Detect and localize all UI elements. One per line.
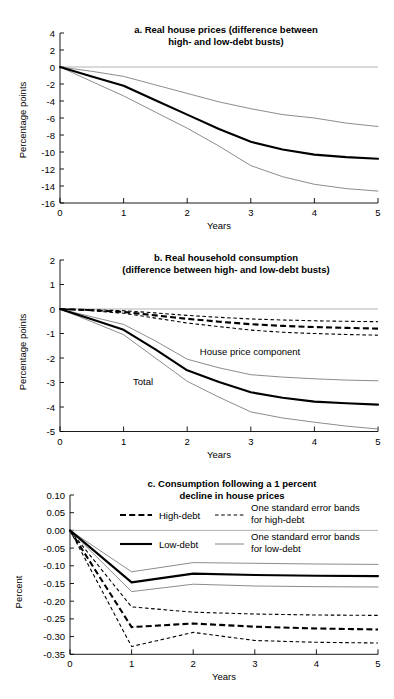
panel-a-y-ticks — [60, 33, 64, 203]
panel-c-x-tick-labels: 0 1 2 3 4 5 — [67, 658, 380, 669]
panel-a-y-tick-labels: 4 2 0 -2 -4 -6 -8 -10 -12 -14 -16 — [41, 28, 55, 209]
panel-c-y-ticks — [70, 495, 74, 654]
panel-a-ytick-10: -16 — [41, 198, 55, 209]
panel-c-titles: c. Consumption following a 1 percent dec… — [148, 478, 318, 501]
three-panel-figure: a. Real house prices (difference between… — [0, 0, 394, 699]
legend-label-high-debt-bands-line2: for high-debt — [251, 514, 305, 525]
panel-b-x-axis-title: Years — [207, 449, 231, 460]
panel-b-xtick-0: 0 — [57, 436, 62, 447]
panel-c-ytick-4: -0.10 — [43, 560, 65, 571]
panel-c-title-line1: c. Consumption following a 1 percent — [148, 478, 318, 489]
panel-a-x-tick-labels: 0 1 2 3 4 5 — [57, 207, 380, 218]
panel-c-xtick-4: 4 — [314, 658, 319, 669]
panel-a-axis-lines — [60, 33, 378, 203]
panel-b-title-line2: (difference between high- and low-debt b… — [122, 264, 329, 275]
legend-label-low-debt-bands-line1: One standard error bands — [251, 531, 360, 542]
panel-b-x-tick-labels: 0 1 2 3 4 5 — [57, 436, 380, 447]
panel-a-ytick-4: -4 — [47, 96, 55, 107]
panel-a-xtick-2: 2 — [185, 207, 190, 218]
panel-c-ytick-7: -0.25 — [43, 613, 65, 624]
panel-a-plot: a. Real house prices (difference between… — [0, 0, 394, 232]
panel-a-title-line2: high- and low-debt busts) — [168, 36, 284, 47]
panel-c-ytick-2: 0.00 — [47, 525, 66, 536]
legend-label-low-debt: Low-debt — [159, 539, 198, 550]
panel-b-total-label: Total — [133, 376, 153, 387]
panel-a-ytick-7: -10 — [41, 147, 55, 158]
panel-c-xtick-3: 3 — [252, 658, 257, 669]
panel-a-ytick-1: 2 — [50, 45, 55, 56]
panel-b-ytick-2: 0 — [50, 304, 55, 315]
panel-a-xtick-5: 5 — [375, 207, 380, 218]
panel-b-ytick-4: -2 — [47, 353, 55, 364]
panel-b-ytick-7: -5 — [47, 426, 55, 437]
panel-b-ytick-3: -1 — [47, 328, 55, 339]
panel-b-house-price-component-label: House price component — [200, 346, 301, 357]
panel-b-title-line1: b. Real household consumption — [154, 252, 298, 263]
panel-c-xtick-1: 1 — [129, 658, 134, 669]
panel-b-titles: b. Real household consumption (differenc… — [122, 252, 329, 275]
panel-b-ytick-0: 2 — [50, 255, 55, 266]
panel-a-real-house-prices: a. Real house prices (difference between… — [0, 0, 394, 232]
panel-a-y-axis-title: Percentage points — [17, 81, 28, 158]
panel-c-ytick-3: -0.05 — [43, 543, 65, 554]
panel-c-ytick-1: 0.05 — [47, 507, 66, 518]
panel-c-y-axis-title: Percent — [13, 575, 24, 608]
panel-c-x-ticks — [70, 649, 378, 654]
legend-label-high-debt: High-debt — [159, 510, 201, 521]
panel-b-xtick-5: 5 — [375, 436, 380, 447]
panel-a-ytick-5: -6 — [47, 113, 55, 124]
panel-c-ytick-5: -0.15 — [43, 578, 65, 589]
panel-c-ytick-9: -0.35 — [43, 649, 65, 660]
panel-b-ytick-6: -4 — [47, 402, 55, 413]
panel-a-ytick-2: 0 — [50, 62, 55, 73]
panel-a-xtick-3: 3 — [248, 207, 253, 218]
panel-c-plot: c. Consumption following a 1 percent dec… — [0, 464, 394, 699]
panel-a-title-line1: a. Real house prices (difference between — [134, 24, 318, 35]
panel-c-ytick-8: -0.30 — [43, 631, 65, 642]
panel-b-xtick-2: 2 — [185, 436, 190, 447]
panel-b-xtick-3: 3 — [248, 436, 253, 447]
panel-b-plot: b. Real household consumption (differenc… — [0, 232, 394, 464]
panel-c-ytick-6: -0.20 — [43, 596, 65, 607]
panel-c-ytick-0: 0.10 — [47, 490, 66, 501]
panel-b-xtick-1: 1 — [121, 436, 126, 447]
panel-a-titles: a. Real house prices (difference between… — [134, 24, 318, 47]
panel-b-y-axis-title: Percentage points — [17, 313, 28, 390]
panel-a-ytick-3: -2 — [47, 79, 55, 90]
panel-c-consumption-following-decline: c. Consumption following a 1 percent dec… — [0, 464, 394, 699]
panel-b-total-upper-band — [60, 309, 378, 381]
panel-b-y-tick-labels: 2 1 0 -1 -2 -3 -4 -5 — [47, 255, 55, 438]
panel-a-ytick-9: -14 — [41, 181, 55, 192]
panel-a-x-ticks — [60, 198, 378, 203]
panel-b-real-household-consumption: b. Real household consumption (differenc… — [0, 232, 394, 464]
panel-b-ytick-1: 1 — [50, 279, 55, 290]
legend-label-high-debt-bands-line1: One standard error bands — [251, 502, 360, 513]
panel-b-y-ticks — [60, 260, 64, 432]
panel-a-point-estimate — [60, 67, 378, 159]
panel-a-ytick-6: -8 — [47, 130, 55, 141]
panel-c-title-line2: decline in house prices — [179, 490, 284, 501]
panel-a-xtick-0: 0 — [57, 207, 62, 218]
panel-c-legend: High-debt One standard error bands for h… — [120, 502, 360, 554]
panel-c-y-tick-labels: 0.10 0.05 0.00 -0.05 -0.10 -0.15 -0.20 -… — [43, 490, 65, 660]
panel-a-ytick-8: -12 — [41, 164, 55, 175]
panel-c-xtick-5: 5 — [375, 658, 380, 669]
panel-b-xtick-4: 4 — [312, 436, 317, 447]
panel-c-xtick-2: 2 — [191, 658, 196, 669]
panel-b-ytick-5: -3 — [47, 377, 55, 388]
panel-a-xtick-4: 4 — [312, 207, 317, 218]
panel-a-x-axis-title: Years — [207, 220, 231, 231]
legend-label-low-debt-bands-line2: for low-debt — [251, 543, 301, 554]
panel-a-xtick-1: 1 — [121, 207, 126, 218]
panel-a-upper-band — [60, 67, 378, 127]
panel-c-x-axis-title: Years — [212, 671, 236, 682]
panel-c-xtick-0: 0 — [67, 658, 72, 669]
panel-b-house-price-point-estimate — [60, 309, 378, 329]
panel-b-x-ticks — [60, 427, 378, 432]
panel-a-ytick-0: 4 — [50, 28, 55, 39]
